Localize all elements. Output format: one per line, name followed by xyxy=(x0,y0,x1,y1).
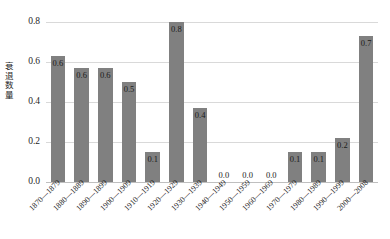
y-tick-label: 0.6 xyxy=(28,57,40,67)
bar-value-label: 0.8 xyxy=(171,25,182,34)
bar-value-label: 0.6 xyxy=(100,71,111,80)
gridline xyxy=(46,62,378,63)
bar: 0.1 xyxy=(311,152,326,182)
bar-value-label: 0.1 xyxy=(290,155,301,164)
x-axis-ticks: 1870—18791880—18891890—18991900—19091910… xyxy=(0,183,390,239)
bar-slot: 0.6 xyxy=(74,22,89,182)
bar-slot: 0.0 xyxy=(264,22,279,182)
bar-value-label: 0.2 xyxy=(337,141,348,150)
bar-slot: 0.7 xyxy=(359,22,374,182)
bar: 0.6 xyxy=(51,56,66,182)
bar: 0.5 xyxy=(122,82,137,182)
bar-value-label: 0.1 xyxy=(147,155,158,164)
bar-slot: 0.6 xyxy=(51,22,66,182)
bar: 0.6 xyxy=(98,68,113,182)
bar: 0.2 xyxy=(335,138,350,182)
bar-slot: 0.6 xyxy=(98,22,113,182)
gridline xyxy=(46,102,378,103)
bar-value-label: 0.4 xyxy=(195,111,206,120)
bar-slot: 0.5 xyxy=(122,22,137,182)
y-tick-label: 0.4 xyxy=(28,97,40,107)
gridline xyxy=(46,22,378,23)
bar-value-label: 0.7 xyxy=(361,39,372,48)
plot-area: 0.60.60.60.50.10.80.40.00.00.00.10.10.20… xyxy=(46,22,378,182)
y-tick-label: 0.8 xyxy=(28,17,40,27)
bar-slot: 0.2 xyxy=(335,22,350,182)
bar-value-label: 0.1 xyxy=(313,155,324,164)
bar-slot: 0.0 xyxy=(240,22,255,182)
bar-value-label: 0.5 xyxy=(124,85,135,94)
bar-chart: 衰退数量 0.00.20.40.60.8 0.60.60.60.50.10.80… xyxy=(0,0,390,239)
bar: 0.7 xyxy=(359,36,374,182)
bar: 0.1 xyxy=(288,152,303,182)
bar-slot: 0.1 xyxy=(145,22,160,182)
y-tick-label: 0.2 xyxy=(28,137,40,147)
bar-value-label: 0.6 xyxy=(53,59,64,68)
bar: 0.6 xyxy=(74,68,89,182)
bar-slot: 0.1 xyxy=(288,22,303,182)
bar-slot: 0.1 xyxy=(311,22,326,182)
bar-slot: 0.8 xyxy=(169,22,184,182)
bar-slot: 0.0 xyxy=(217,22,232,182)
bar: 0.4 xyxy=(193,108,208,182)
gridline xyxy=(46,142,378,143)
bar-value-label: 0.6 xyxy=(76,71,87,80)
bar: 0.8 xyxy=(169,22,184,182)
bar: 0.1 xyxy=(145,152,160,182)
bar-slot: 0.4 xyxy=(193,22,208,182)
